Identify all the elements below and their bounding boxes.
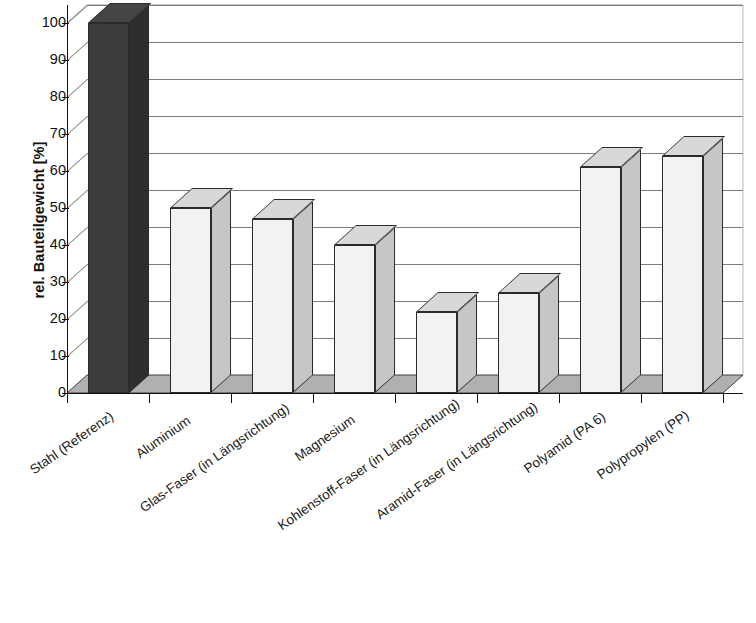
y-axis-tick-label: 10 <box>22 348 66 363</box>
gridline-depth-riser <box>67 79 88 98</box>
bar <box>662 156 703 393</box>
gridline-depth-riser <box>67 116 88 135</box>
gridline-depth-riser <box>67 153 88 172</box>
gridline <box>87 153 743 154</box>
gridline <box>87 116 743 117</box>
x-axis-category-label: Magnesium <box>292 412 358 464</box>
x-axis-category-label: Kohlenstoff-Faser (in Längsrichtung) <box>275 396 462 533</box>
bar <box>498 293 539 393</box>
gridline-depth-riser <box>67 264 88 283</box>
bar-front-face <box>580 167 621 393</box>
bar <box>88 23 129 393</box>
gridline <box>87 5 743 6</box>
gridline-depth-riser <box>67 301 88 320</box>
x-axis-category-label: Polyamid (PA 6) <box>521 409 608 476</box>
gridline <box>87 79 743 80</box>
bar-side-face <box>621 149 641 393</box>
bar-front-face <box>416 312 457 393</box>
bar-front-face <box>334 245 375 393</box>
y-axis-tick-label: 100 <box>22 15 66 30</box>
y-axis-tick-label: 0 <box>22 385 66 400</box>
bar-front-face <box>252 219 293 393</box>
y-axis-tick-label: 80 <box>22 89 66 104</box>
bar <box>580 167 621 393</box>
bar-side-face <box>375 227 395 393</box>
bar-front-face <box>498 293 539 393</box>
y-axis-tick-label: 30 <box>22 274 66 289</box>
gridline <box>87 42 743 43</box>
y-axis-tick-labels: 0102030405060708090100 <box>22 0 66 400</box>
x-axis-category-label: Polypropylen (PP) <box>594 408 692 483</box>
y-axis-tick-label: 60 <box>22 163 66 178</box>
bar-side-face <box>129 5 149 393</box>
x-axis-category-label: Aramid-Faser (in Längsrichtung) <box>373 399 540 522</box>
x-axis-category-label: Glas-Faser (in Längsrichtung) <box>137 400 292 515</box>
bar-chart: rel. Bauteilgewicht [%] 0102030405060708… <box>0 0 756 623</box>
y-axis-tick-label: 40 <box>22 237 66 252</box>
gridline <box>87 190 743 191</box>
x-axis-category-label: Stahl (Referenz) <box>27 409 116 478</box>
y-axis-line <box>67 5 68 394</box>
gridline-depth-riser <box>67 227 88 246</box>
gridline-depth-riser <box>67 190 88 209</box>
gridline-depth-riser <box>67 338 88 357</box>
bar-front-face <box>662 156 703 393</box>
bar <box>252 219 293 393</box>
gridline-depth-riser <box>67 5 88 24</box>
y-axis-tick-label: 20 <box>22 311 66 326</box>
x-axis-category-label: Aluminium <box>133 412 193 460</box>
x-axis-category-labels: Stahl (Referenz)AluminiumGlas-Faser (in … <box>0 400 756 623</box>
bar <box>416 312 457 393</box>
bar <box>334 245 375 393</box>
y-axis-tick-label: 90 <box>22 52 66 67</box>
bar-front-face <box>88 23 129 393</box>
gridline-depth-riser <box>67 42 88 61</box>
bar <box>170 208 211 393</box>
bar-side-face <box>293 201 313 393</box>
y-axis-tick-label: 50 <box>22 200 66 215</box>
x-axis-line <box>67 393 743 394</box>
bar-side-face <box>211 190 231 393</box>
bar-side-face <box>539 275 559 393</box>
bar-front-face <box>170 208 211 393</box>
y-axis-tick-label: 70 <box>22 126 66 141</box>
bar-side-face <box>703 138 723 393</box>
